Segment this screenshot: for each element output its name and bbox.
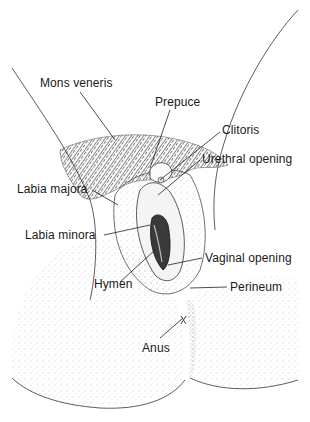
leader-mons-veneris [80, 92, 115, 140]
label-prepuce: Prepuce [155, 95, 200, 109]
right-thigh-outline [214, 10, 298, 230]
label-labia-minora: Labia minora [25, 228, 96, 242]
label-mons-veneris: Mons veneris [40, 76, 113, 90]
label-anus: Anus [142, 341, 170, 355]
label-hymen: Hymen [94, 277, 133, 291]
anus-mark [181, 316, 186, 324]
anatomy-drawing [0, 0, 310, 422]
label-clitoris: Clitoris [222, 123, 259, 137]
anatomy-figure: Mons veneris Prepuce Clitoris Urethral o… [0, 0, 310, 422]
label-perineum: Perineum [230, 280, 282, 294]
label-labia-majora: Labia majora [17, 182, 88, 196]
label-vaginal-opening: Vaginal opening [205, 251, 292, 265]
label-urethral-opening: Urethral opening [202, 152, 292, 166]
